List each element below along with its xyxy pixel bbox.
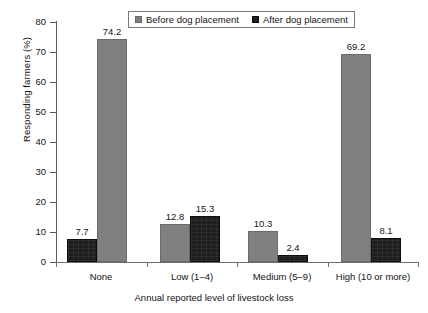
chart-legend: Before dog placement After dog placement: [128, 11, 355, 28]
legend-item-after[interactable]: After dog placement: [252, 15, 348, 25]
bar-after-2[interactable]: [190, 216, 220, 262]
y-axis-line: [56, 21, 57, 263]
bar-value-label: 10.3: [242, 218, 284, 229]
x-tick-mark: [328, 262, 329, 267]
bar-after-4[interactable]: [371, 238, 401, 262]
legend-swatch-before-icon: [135, 16, 142, 23]
bar-value-label: 69.2: [335, 41, 377, 52]
y-tick-label: 60: [22, 77, 46, 87]
y-tick-label: 40: [22, 137, 46, 147]
x-tick-mark: [418, 262, 419, 267]
legend-label-before: Before dog placement: [146, 15, 239, 25]
y-tick-mark: [50, 202, 56, 203]
x-tick-mark: [56, 262, 57, 267]
y-tick-mark: [50, 22, 56, 23]
bar-value-label: 74.2: [91, 26, 133, 37]
bar-before-1[interactable]: [97, 39, 127, 262]
bar-value-label: 8.1: [365, 225, 407, 236]
x-tick-mark: [237, 262, 238, 267]
category-label-4: High (10 or more): [313, 271, 428, 282]
y-tick-mark: [50, 142, 56, 143]
bar-value-label: 2.4: [272, 242, 314, 253]
x-tick-mark: [147, 262, 148, 267]
y-tick-mark: [50, 112, 56, 113]
y-tick-mark: [50, 82, 56, 83]
y-tick-label: 50: [22, 107, 46, 117]
bar-after-1[interactable]: [67, 239, 97, 262]
y-tick-mark: [50, 52, 56, 53]
y-tick-label: 80: [22, 17, 46, 27]
y-tick-mark: [50, 172, 56, 173]
y-tick-mark: [50, 232, 56, 233]
bar-chart: Responding farmers (%) 01020304050607080…: [0, 0, 428, 313]
y-tick-label: 10: [22, 227, 46, 237]
y-tick-label: 70: [22, 47, 46, 57]
y-tick-label: 30: [22, 167, 46, 177]
legend-swatch-after-icon: [252, 16, 259, 23]
bar-after-3[interactable]: [278, 255, 308, 262]
legend-label-after: After dog placement: [263, 15, 348, 25]
legend-item-before[interactable]: Before dog placement: [135, 15, 239, 25]
y-tick-label: 0: [22, 257, 46, 267]
bar-before-2[interactable]: [160, 224, 190, 262]
bar-value-label: 15.3: [184, 203, 226, 214]
x-axis-title: Annual reported level of livestock loss: [0, 292, 428, 303]
y-tick-label: 20: [22, 197, 46, 207]
